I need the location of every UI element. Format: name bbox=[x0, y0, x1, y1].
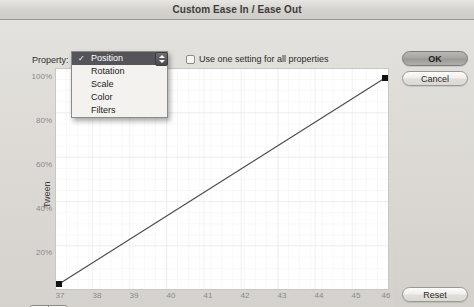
y-tick: 20% bbox=[26, 248, 52, 257]
checkbox-label: Use one setting for all properties bbox=[199, 54, 329, 64]
x-tick: 45 bbox=[346, 291, 366, 300]
custom-ease-dialog: Custom Ease In / Ease Out Property: bbox=[0, 0, 474, 307]
window-titlebar: Custom Ease In / Ease Out bbox=[0, 0, 474, 20]
menu-item-position[interactable]: ✓ Position bbox=[72, 52, 167, 65]
x-tick: 44 bbox=[309, 291, 329, 300]
y-tick: 80% bbox=[26, 116, 52, 125]
menu-item-label: Filters bbox=[91, 105, 116, 115]
menu-item-label: Color bbox=[91, 92, 113, 102]
y-tick: 60% bbox=[26, 160, 52, 169]
chevron-down-icon bbox=[159, 60, 165, 63]
y-axis-ticks: 100% 80% 60% 40% 20% bbox=[22, 68, 52, 290]
property-dropdown-menu[interactable]: ✓ Position Rotation Scale Color Filters bbox=[71, 51, 168, 118]
menu-item-rotation[interactable]: Rotation bbox=[72, 65, 167, 78]
x-tick: 41 bbox=[198, 291, 218, 300]
menu-item-filters[interactable]: Filters bbox=[72, 104, 167, 117]
checkmark-icon: ✓ bbox=[78, 52, 85, 65]
property-label: Property: bbox=[32, 55, 69, 65]
x-tick: 40 bbox=[161, 291, 181, 300]
y-tick: 100% bbox=[26, 72, 52, 81]
checkbox-box[interactable] bbox=[186, 55, 195, 64]
window-title: Custom Ease In / Ease Out bbox=[0, 4, 474, 15]
dropdown-arrows-icon[interactable] bbox=[155, 52, 168, 66]
use-one-setting-checkbox[interactable]: Use one setting for all properties bbox=[186, 54, 329, 64]
control-point-end[interactable] bbox=[382, 75, 388, 81]
x-tick: 38 bbox=[87, 291, 107, 300]
x-axis-ticks: 37 38 39 40 41 42 43 44 45 46 bbox=[55, 291, 389, 303]
x-tick: 43 bbox=[272, 291, 292, 300]
menu-item-label: Scale bbox=[91, 79, 114, 89]
x-tick: 42 bbox=[235, 291, 255, 300]
x-tick: 46 bbox=[376, 291, 396, 300]
ok-button[interactable]: OK bbox=[402, 51, 468, 66]
reset-button[interactable]: Reset bbox=[402, 287, 468, 302]
cancel-button[interactable]: Cancel bbox=[402, 71, 468, 86]
menu-item-label: Rotation bbox=[91, 66, 125, 76]
x-tick: 39 bbox=[124, 291, 144, 300]
chevron-up-icon bbox=[159, 55, 165, 58]
dialog-body: Property: Tween bbox=[0, 20, 474, 307]
y-tick: 40% bbox=[26, 204, 52, 213]
menu-item-label: Position bbox=[91, 53, 123, 63]
x-tick: 37 bbox=[50, 291, 70, 300]
menu-item-color[interactable]: Color bbox=[72, 91, 167, 104]
control-point-start[interactable] bbox=[56, 281, 62, 287]
menu-item-scale[interactable]: Scale bbox=[72, 78, 167, 91]
